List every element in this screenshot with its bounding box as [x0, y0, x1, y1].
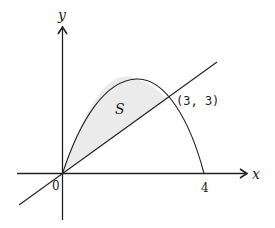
shaded-region-s	[63, 76, 168, 173]
x-axis-label: x	[252, 166, 260, 182]
region-label-s: S	[115, 101, 125, 117]
origin-label: 0	[52, 179, 60, 193]
graph-figure: y x 0 4 S (3, 3)	[0, 0, 275, 228]
intersection-label: (3, 3)	[176, 94, 219, 108]
x-tick-label-4: 4	[201, 181, 209, 195]
y-axis-label: y	[57, 7, 67, 23]
